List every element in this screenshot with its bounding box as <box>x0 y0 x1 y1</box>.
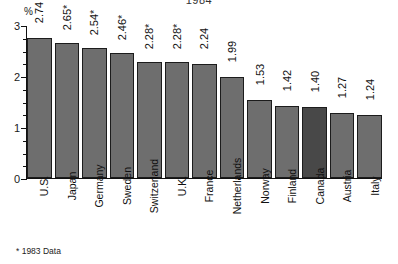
bar-value-label: 1.53 <box>254 64 265 85</box>
bar-slot[interactable]: 1.42 <box>275 24 300 178</box>
bar-chart: 1984 % 3210 2.742.65*2.54*2.46*2.28*2.28… <box>0 0 398 264</box>
bar-value-label: 1.27 <box>337 77 348 98</box>
bar[interactable] <box>275 106 300 178</box>
bar-slot[interactable]: 2.24 <box>192 24 217 178</box>
x-label-slot: Austria <box>330 184 355 244</box>
bar-value-label: 2.28* <box>144 23 155 49</box>
x-axis-label: U.S. <box>39 176 50 196</box>
bar-value-label: 1.42 <box>282 69 293 90</box>
x-axis-label: Austria <box>342 170 353 203</box>
bar-slot[interactable]: 2.28* <box>137 24 162 178</box>
bar-slot[interactable]: 2.54* <box>82 24 107 178</box>
x-axis-label: Netherlands <box>232 158 243 215</box>
bar-slot[interactable]: 1.24 <box>357 24 382 178</box>
x-axis-label: U.K. <box>177 176 188 196</box>
bar[interactable] <box>165 62 190 178</box>
x-label-slot: France <box>192 184 217 244</box>
x-axis-label: Germany <box>94 164 105 207</box>
bar-slot[interactable]: 1.40 <box>302 24 327 178</box>
bar-value-label: 2.46* <box>116 14 127 40</box>
y-tick-label: 1 <box>14 123 20 134</box>
bar[interactable] <box>82 48 107 178</box>
bar-slot[interactable]: 2.46* <box>110 24 135 178</box>
y-tick-label: 2 <box>14 72 20 83</box>
bar[interactable] <box>27 38 52 178</box>
x-axis-label: Norway <box>260 168 271 204</box>
chart-footnote: * 1983 Data <box>16 246 61 256</box>
x-label-slot: Norway <box>247 184 272 244</box>
bar[interactable] <box>55 43 80 178</box>
x-axis-label: France <box>204 170 215 203</box>
y-tick-major <box>21 179 27 180</box>
bar[interactable] <box>110 53 135 178</box>
bar-value-label: 1.24 <box>364 79 375 100</box>
x-axis-label: Switzerland <box>149 159 160 213</box>
x-axis-label: Sweden <box>122 167 133 205</box>
x-label-slot: Sweden <box>110 184 135 244</box>
x-label-slot: Switzerland <box>137 184 162 244</box>
x-label-slot: Finland <box>275 184 300 244</box>
bar-slot[interactable]: 2.74 <box>27 24 52 178</box>
x-axis-label: Canada <box>315 168 326 205</box>
x-label-slot: Germany <box>82 184 107 244</box>
bar[interactable] <box>330 113 355 178</box>
y-tick-label: 3 <box>14 21 20 32</box>
bar[interactable] <box>247 100 272 178</box>
bar-value-label: 2.65* <box>61 5 72 31</box>
x-label-slot: Japan <box>55 184 80 244</box>
x-label-slot: Italy <box>357 184 382 244</box>
bar-value-label: 2.54* <box>89 10 100 36</box>
bar-value-label: 1.40 <box>309 70 320 91</box>
bar-value-label: 2.74 <box>34 2 45 23</box>
x-axis-labels: U.S.JapanGermanySwedenSwitzerlandU.K.Fra… <box>27 184 382 244</box>
x-label-slot: Canada <box>302 184 327 244</box>
x-axis-label: Italy <box>370 176 381 195</box>
x-axis-label: Japan <box>67 172 78 201</box>
bar-value-label: 1.99 <box>226 40 237 61</box>
x-label-slot: U.K. <box>165 184 190 244</box>
x-label-slot: Netherlands <box>220 184 245 244</box>
plot-area: 3210 2.742.65*2.54*2.46*2.28*2.28*2.241.… <box>26 20 382 182</box>
y-tick-label: 0 <box>14 174 20 185</box>
bar-slot[interactable]: 2.65* <box>55 24 80 178</box>
bar-slot[interactable]: 2.28* <box>165 24 190 178</box>
bar-value-label: 2.28* <box>171 23 182 49</box>
x-axis-label: Finland <box>287 169 298 203</box>
x-label-slot: U.S. <box>27 184 52 244</box>
bar-slot[interactable]: 1.27 <box>330 24 355 178</box>
bar[interactable] <box>357 115 382 178</box>
bar-value-label: 2.24 <box>199 28 210 49</box>
bar-slot[interactable]: 1.99 <box>220 24 245 178</box>
bar[interactable] <box>192 64 217 178</box>
bar-slot[interactable]: 1.53 <box>247 24 272 178</box>
bar-group: 2.742.65*2.54*2.46*2.28*2.28*2.241.991.5… <box>27 24 382 178</box>
